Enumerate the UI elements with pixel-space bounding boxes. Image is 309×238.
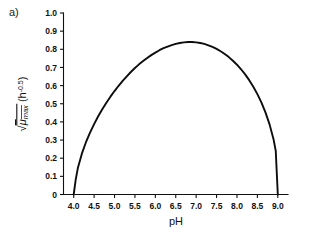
y-tick-label: 0 [52,190,57,200]
y-tick-label: 0.6 [45,81,57,91]
y-tick-label: 1.0 [45,8,57,18]
y-axis-units-open: (h [16,92,28,102]
y-tick-label: 0.3 [45,135,57,145]
y-axis-units-exponent: -0.5 [17,80,24,92]
x-tick-label: 4.0 [68,201,80,211]
y-tick-label: 0.4 [45,117,57,127]
x-tick-label: 7.5 [211,201,223,211]
y-tick-label: 0.7 [45,63,57,73]
y-tick-label: 0.1 [45,171,57,181]
x-tick-label: 5.0 [109,201,121,211]
x-tick-label: 6.0 [149,201,161,211]
y-tick-label: 0.5 [45,99,57,109]
x-tick-label: 8.0 [231,201,243,211]
svg-text:√μmax (h-0.5): √μmax (h-0.5) [16,77,30,132]
x-tick-labels: 4.04.55.05.56.06.57.07.58.08.59.0 [68,201,284,211]
x-tick-label: 6.5 [170,201,182,211]
figure-panel: a) 00.10.20.30.40.50.60.70.80.91.0 4.04.… [0,0,309,238]
y-tick-label: 0.2 [45,153,57,163]
data-curve-sqrt-mumax [74,42,278,194]
y-axis-mu-glyph: μ [16,119,28,126]
x-tick-label: 7.0 [190,201,202,211]
y-axis-units-close: ) [16,77,28,81]
x-axis-title: pH [169,215,183,227]
x-tick-label: 4.5 [88,201,100,211]
y-tick-labels: 00.10.20.30.40.50.60.70.80.91.0 [45,8,57,200]
x-tick-label: 8.5 [251,201,263,211]
x-tick-label: 9.0 [272,201,284,211]
y-tick-label: 0.8 [45,44,57,54]
y-tick-label: 0.9 [45,26,57,36]
x-tick-label: 5.5 [129,201,141,211]
y-axis-subscript: max [21,105,30,119]
chart-canvas: 00.10.20.30.40.50.60.70.80.91.0 4.04.55.… [0,0,309,238]
y-axis-title: √μmax (h-0.5) [16,77,30,132]
